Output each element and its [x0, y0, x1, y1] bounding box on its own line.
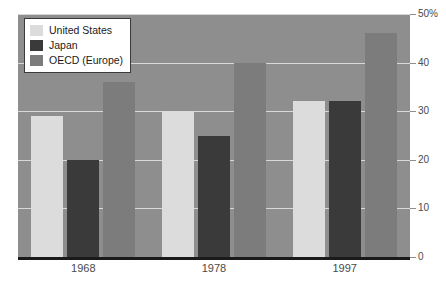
- x-tick-label-1997: 1997: [279, 262, 410, 274]
- y-tick-20: [410, 160, 416, 161]
- bar-group-1997: [279, 14, 410, 257]
- y-tick-0: [410, 257, 416, 258]
- bar-japan-1968: [67, 160, 99, 257]
- y-tick-label-20: 20: [418, 155, 429, 165]
- bar-united-states-1968: [31, 116, 63, 257]
- y-tick-50: [410, 14, 416, 15]
- y-tick-30: [410, 111, 416, 112]
- legend-item-oecd-europe: OECD (Europe): [30, 53, 123, 68]
- x-axis-line: [18, 257, 410, 260]
- bar-united-states-1997: [293, 101, 325, 257]
- legend-swatch-japan: [30, 40, 43, 51]
- legend-swatch-united-states: [30, 25, 43, 36]
- legend-label-united-states: United States: [49, 25, 112, 36]
- bar-united-states-1978: [162, 111, 194, 257]
- bar-group-1978: [149, 14, 280, 257]
- legend-item-japan: Japan: [30, 38, 123, 53]
- legend: United States Japan OECD (Europe): [24, 18, 131, 73]
- bar-japan-1997: [329, 101, 361, 257]
- legend-label-oecd-europe: OECD (Europe): [49, 55, 123, 66]
- y-tick-label-30: 30: [418, 106, 429, 116]
- bar-oecd-europe-1997: [365, 33, 397, 257]
- legend-swatch-oecd-europe: [30, 55, 43, 66]
- y-tick-label-50: 50%: [418, 9, 438, 19]
- y-tick-10: [410, 208, 416, 209]
- y-tick-label-10: 10: [418, 203, 429, 213]
- y-tick-label-40: 40: [418, 58, 429, 68]
- legend-item-united-states: United States: [30, 23, 123, 38]
- x-tick-label-1968: 1968: [18, 262, 149, 274]
- y-tick-label-0: 0: [418, 252, 424, 262]
- bar-oecd-europe-1968: [103, 82, 135, 257]
- y-tick-40: [410, 63, 416, 64]
- x-tick-label-1978: 1978: [149, 262, 280, 274]
- bar-japan-1978: [198, 136, 230, 258]
- bar-chart: 01020304050% 196819781997 United States …: [0, 0, 446, 283]
- legend-label-japan: Japan: [49, 40, 78, 51]
- bar-oecd-europe-1978: [234, 63, 266, 257]
